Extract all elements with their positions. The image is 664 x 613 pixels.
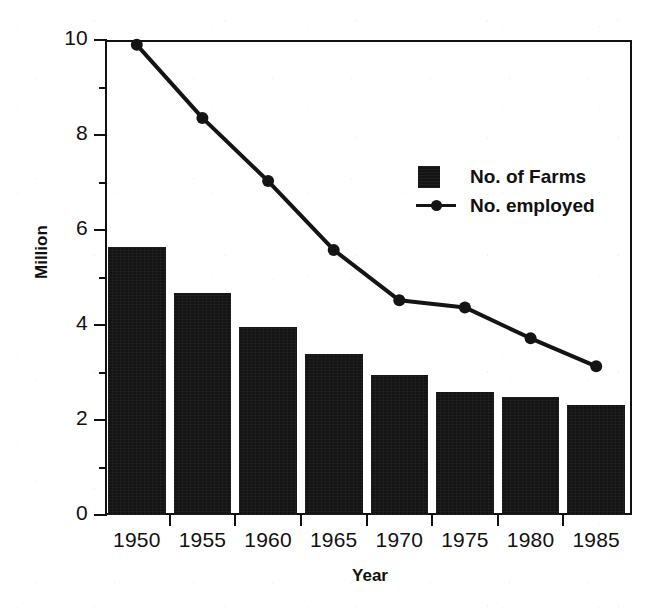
legend-label-no-of-farms: No. of Farms <box>464 166 586 188</box>
y-tick-label: 10 <box>40 26 88 50</box>
y-tick-major <box>94 324 107 326</box>
line-marker <box>328 244 340 256</box>
line-marker <box>525 332 537 344</box>
x-tick <box>431 515 433 526</box>
y-tick-minor <box>99 467 107 469</box>
x-axis-title: Year <box>0 566 664 586</box>
y-tick-major <box>94 39 107 41</box>
x-tick <box>497 515 499 526</box>
y-tick-minor <box>99 372 107 374</box>
legend-swatch-square-icon <box>416 164 464 190</box>
y-tick-minor <box>99 87 107 89</box>
x-tick <box>169 515 171 526</box>
y-tick-label: 2 <box>40 406 88 430</box>
x-tick <box>234 515 236 526</box>
x-tick-label: 1985 <box>556 528 636 552</box>
x-axis-title-text: Year <box>352 566 388 585</box>
line-marker <box>196 112 208 124</box>
y-tick-label: 4 <box>40 311 88 335</box>
y-tick-label: 8 <box>40 121 88 145</box>
x-tick <box>562 515 564 526</box>
line-marker <box>262 175 274 187</box>
y-tick-label: 0 <box>40 501 88 525</box>
y-tick-minor <box>99 277 107 279</box>
y-tick-major <box>94 419 107 421</box>
line-marker <box>459 301 471 313</box>
line-marker <box>393 294 405 306</box>
chart-figure: 0246810 Million 195019551960196519701975… <box>0 0 664 613</box>
x-tick <box>300 515 302 526</box>
y-tick-major <box>94 134 107 136</box>
legend-item-no-employed: No. employed <box>416 191 595 220</box>
legend-line-marker-icon <box>416 193 464 219</box>
y-tick-major <box>94 514 107 516</box>
line-series-no-employed <box>107 40 632 515</box>
y-axis-title: Million <box>32 235 52 279</box>
legend-item-no-of-farms: No. of Farms <box>416 162 595 191</box>
y-tick-minor <box>99 182 107 184</box>
chart-legend: No. of Farms No. employed <box>416 162 595 220</box>
y-tick-major <box>94 229 107 231</box>
line-marker <box>131 39 143 51</box>
x-tick <box>366 515 368 526</box>
line-marker <box>590 360 602 372</box>
legend-label-no-employed: No. employed <box>464 195 595 217</box>
